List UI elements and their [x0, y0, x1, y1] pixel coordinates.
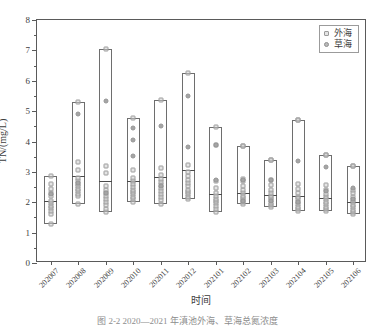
x-tick-label: 202101 [203, 267, 226, 290]
y-tick-label: 0 [26, 259, 31, 268]
x-tick-label: 202012 [175, 267, 198, 290]
x-tick-label: 202102 [230, 267, 253, 290]
box-plot-item [37, 20, 367, 263]
x-tick-label: 202008 [65, 267, 88, 290]
legend-item-caohai: 草海 [324, 39, 352, 50]
x-tick-label: 202011 [148, 267, 170, 289]
legend-label-caohai: 草海 [334, 39, 352, 50]
x-tick-label: 202009 [93, 267, 116, 290]
x-axis-title: 时间 [36, 292, 366, 307]
data-point-caohai [351, 185, 356, 190]
y-tick-label: 1 [26, 228, 31, 237]
figure-caption: 图 2-2 2020—2021 年滇池外海、草海总氮浓度 [0, 314, 375, 327]
y-tick-major [32, 263, 37, 264]
plot-area: 012345678 202007202008202009202010202011… [36, 19, 366, 262]
x-tick-label: 202106 [340, 267, 363, 290]
y-tick-label: 6 [26, 76, 31, 85]
y-tick-label: 7 [26, 46, 31, 55]
x-tick-label: 202010 [120, 267, 143, 290]
legend-label-waihai: 外海 [334, 28, 352, 39]
data-point-waihai [351, 163, 356, 168]
y-tick-label: 8 [26, 16, 31, 25]
data-point-caohai [351, 197, 356, 202]
y-tick-label: 2 [26, 198, 31, 207]
x-tick-label: 202104 [285, 267, 308, 290]
legend-item-waihai: 外海 [324, 28, 352, 39]
filled-circle-icon [324, 42, 329, 47]
open-square-icon [324, 31, 329, 36]
x-tick-label: 202007 [38, 267, 61, 290]
x-tick-label: 202105 [313, 267, 336, 290]
y-tick-label: 3 [26, 167, 31, 176]
plot-inner: 012345678 202007202008202009202010202011… [37, 20, 365, 261]
legend: 外海 草海 [319, 25, 359, 53]
x-tick-label: 202103 [258, 267, 281, 290]
y-tick-label: 5 [26, 107, 31, 116]
y-tick-label: 4 [26, 137, 31, 146]
y-axis-title: TN/(mg/L) [0, 119, 8, 163]
